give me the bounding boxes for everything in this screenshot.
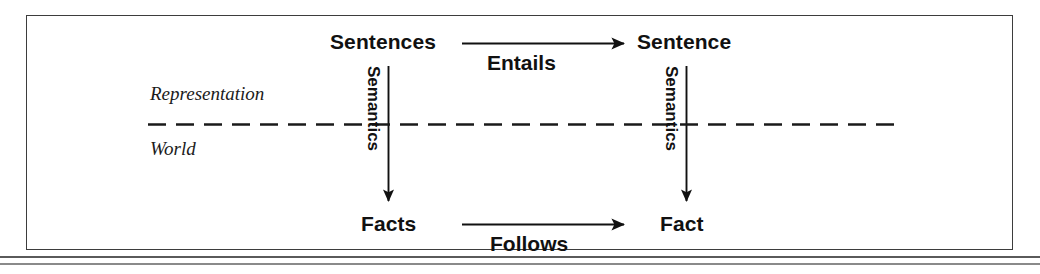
node-facts: Facts bbox=[361, 213, 416, 234]
edge-label-follows: Follows bbox=[490, 233, 568, 254]
node-sentence: Sentence bbox=[637, 31, 731, 52]
region-label-world: World bbox=[150, 139, 196, 158]
edge-label-semantics-right: Semantics bbox=[663, 66, 680, 151]
bottom-rule-secondary bbox=[0, 263, 1040, 265]
node-sentences: Sentences bbox=[330, 31, 436, 52]
diagram-canvas: Sentences Sentence Facts Fact Entails Fo… bbox=[0, 0, 1040, 274]
region-label-representation: Representation bbox=[150, 84, 264, 103]
node-fact: Fact bbox=[660, 213, 704, 234]
edge-label-semantics-left: Semantics bbox=[365, 66, 382, 151]
edge-label-entails: Entails bbox=[487, 52, 556, 73]
bottom-rule-primary bbox=[0, 256, 1040, 258]
